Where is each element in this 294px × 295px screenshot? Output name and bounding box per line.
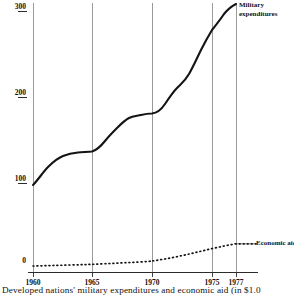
series-label-military-expenditures: Military expenditures [239,1,277,18]
y-axis-label-300: 300 [0,2,26,11]
series-line-military-expenditures [33,4,236,185]
military-label-line1: Military [239,1,264,9]
y-tick-dash-300 [18,11,27,12]
y-axis-label-0: 0 [0,256,26,265]
chart-plot-area [0,0,294,295]
y-tick-dash-100 [18,183,27,184]
y-axis-label-100: 100 [0,174,26,183]
figure-caption: Developed nations' military expenditures… [2,285,294,295]
vertical-gridlines [34,3,237,272]
series-label-economic-aid: Economic aid [256,239,294,248]
chart-figure: 300 200 100 0 1960 1965 1970 1975 1977 M… [0,0,294,295]
y-tick-dash-200 [18,97,27,98]
series-line-economic-aid [33,244,256,266]
y-axis-label-200: 200 [0,88,26,97]
military-label-line2: expenditures [239,10,277,18]
